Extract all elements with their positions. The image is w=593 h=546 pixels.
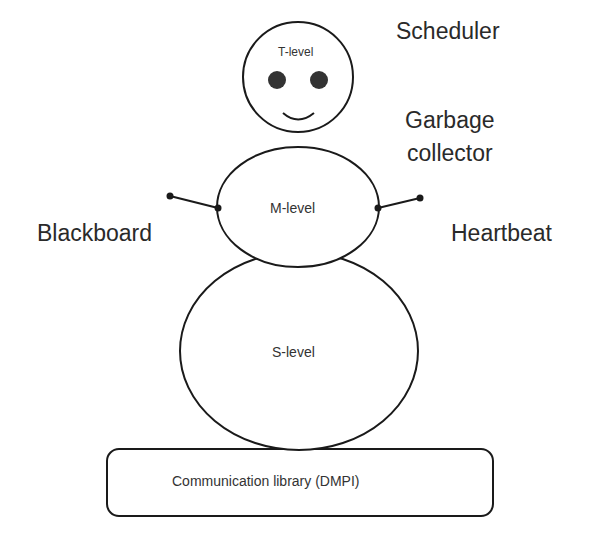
snowman-diagram — [0, 0, 593, 546]
left-arm-joint-dot — [215, 205, 222, 212]
right-arm-end-dot — [417, 195, 424, 202]
right-arm-joint-dot — [375, 205, 382, 212]
heartbeat-label: Heartbeat — [451, 220, 552, 247]
right-arm — [378, 198, 420, 208]
s-level-label: S-level — [272, 344, 315, 360]
garbage-collector-label-line1: Garbage — [405, 107, 495, 134]
t-level-label: T-level — [278, 45, 313, 59]
left-arm-end-dot — [167, 193, 174, 200]
blackboard-label: Blackboard — [37, 220, 152, 247]
t-level-circle — [243, 22, 353, 132]
communication-library-label: Communication library (DMPI) — [172, 473, 359, 489]
m-level-label: M-level — [270, 200, 315, 216]
left-arm — [170, 196, 218, 208]
scheduler-label: Scheduler — [396, 18, 500, 45]
left-eye-icon — [268, 71, 286, 89]
garbage-collector-label-line2: collector — [407, 140, 493, 167]
right-eye-icon — [310, 71, 328, 89]
